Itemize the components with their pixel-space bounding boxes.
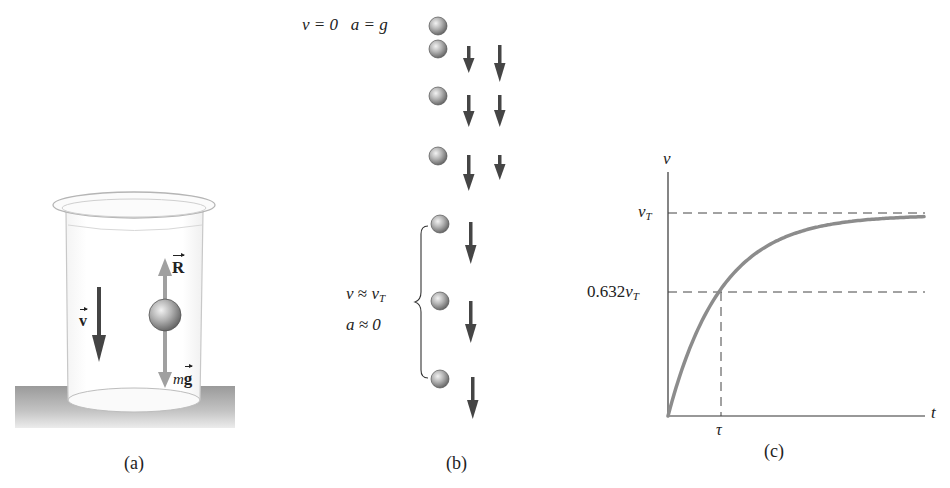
fraction-tick-label: 0.632vT	[587, 283, 639, 300]
gravity-force-label: mg	[173, 370, 192, 387]
resistive-force-label: R	[172, 259, 184, 276]
acceleration-arrow-4	[494, 155, 506, 180]
gravity-symbol: g	[184, 370, 193, 387]
velocity-arrow-3	[463, 95, 475, 127]
vt-tick-symbol: v	[638, 202, 646, 221]
ball-position-7	[431, 370, 449, 388]
velocity-vector-label: v	[79, 313, 87, 329]
vt-subscript: T	[379, 292, 385, 304]
fraction-coefficient: 0.632	[587, 282, 625, 301]
tau-tick-label: τ	[716, 422, 722, 438]
ball-position-1	[429, 17, 447, 35]
vt-symbol: v	[371, 284, 379, 303]
initial-state-label: v = 0 a = g	[302, 16, 388, 33]
caption-c: (c)	[764, 442, 784, 460]
zero-acceleration-label: a ≈ 0	[346, 316, 381, 333]
v-symbol: v	[346, 284, 354, 303]
figure-canvas	[0, 0, 950, 488]
x-axis-label: t	[931, 404, 936, 421]
ball-position-6	[431, 292, 449, 310]
fraction-symbol: v	[625, 282, 633, 301]
velocity-curve	[668, 217, 924, 416]
resistive-force-symbol: R	[172, 259, 184, 276]
y-axis-label: v	[663, 150, 671, 167]
sphere	[149, 299, 181, 331]
velocity-arrow-5	[465, 222, 477, 264]
ball-position-5	[431, 215, 449, 233]
acceleration-arrows	[494, 45, 506, 180]
ball-position-3	[429, 87, 447, 105]
ball-position-4	[429, 147, 447, 165]
velocity-arrows	[463, 46, 479, 419]
velocity-arrow-7	[467, 377, 479, 419]
beaker-rim-outer	[53, 192, 215, 218]
mass-symbol: m	[173, 371, 184, 387]
vt-tick-label: vT	[638, 203, 652, 220]
ball-position-2	[429, 40, 447, 58]
approx-symbol: ≈	[354, 284, 372, 303]
velocity-arrow-4	[463, 155, 475, 191]
panel-c-velocity-graph	[668, 172, 925, 416]
acceleration-arrow-3	[494, 95, 506, 127]
terminal-velocity-label: v ≈ vT	[346, 285, 385, 302]
caption-a: (a)	[124, 454, 144, 472]
velocity-arrow-6	[465, 301, 477, 343]
panel-a-beaker-diagram	[15, 192, 235, 428]
vt-tick-subscript: T	[646, 210, 652, 222]
velocity-arrow-2	[463, 46, 475, 73]
beaker-bottom	[68, 388, 200, 412]
velocity-symbol: v	[79, 313, 87, 329]
acceleration-arrow-2	[494, 45, 506, 82]
caption-b: (b)	[446, 454, 467, 472]
panel-b-falling-sequence	[415, 17, 506, 419]
fraction-subscript: T	[633, 290, 639, 302]
terminal-velocity-brace	[415, 226, 428, 378]
